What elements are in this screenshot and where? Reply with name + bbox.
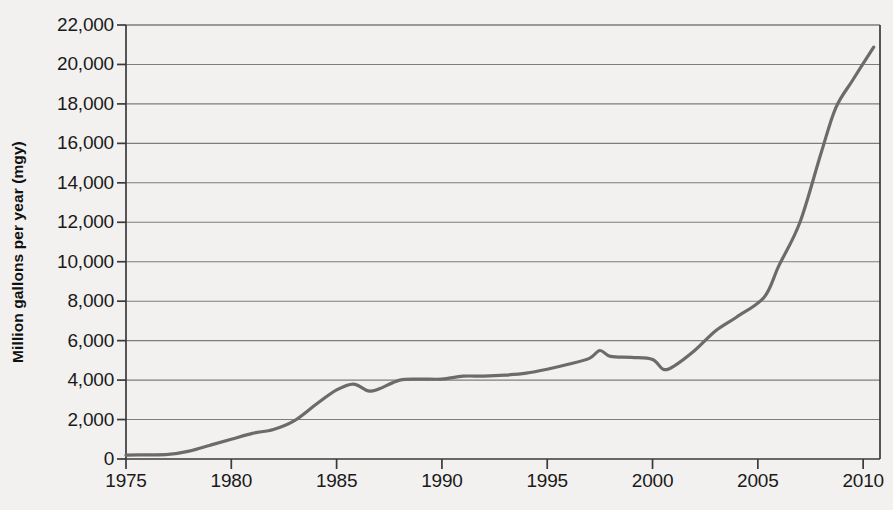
plot-area xyxy=(0,0,893,510)
axis-frame xyxy=(126,25,880,459)
chart-container: Million gallons per year (mgy) 02,0004,0… xyxy=(0,0,893,510)
gridlines xyxy=(126,25,880,420)
tick-marks xyxy=(117,25,863,469)
data-series-line xyxy=(126,47,874,455)
